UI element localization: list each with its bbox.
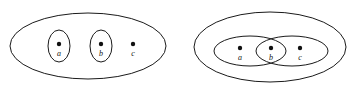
left-point-dot-b [99, 42, 103, 46]
left-outer-ellipse [10, 13, 166, 79]
right-inner-ellipse-left [214, 36, 286, 66]
left-point-label-c: c [131, 49, 135, 58]
right-panel: a b c [194, 12, 346, 82]
figure-root: a b c a b c [0, 0, 354, 90]
left-point-label-a: a [57, 49, 61, 58]
right-point-label-c: c [298, 53, 302, 62]
right-point-label-a: a [238, 53, 242, 62]
set-diagram-figure: a b c a b c [0, 0, 354, 90]
left-point-dot-c [131, 42, 135, 46]
left-panel: a b c [10, 13, 166, 79]
right-point-dot-a [238, 46, 242, 50]
right-point-dot-b [269, 46, 273, 50]
left-point-dot-a [57, 42, 61, 46]
left-point-label-b: b [99, 49, 103, 58]
right-point-dot-c [298, 46, 302, 50]
right-inner-ellipse-right [256, 36, 328, 66]
right-point-label-b: b [269, 53, 273, 62]
